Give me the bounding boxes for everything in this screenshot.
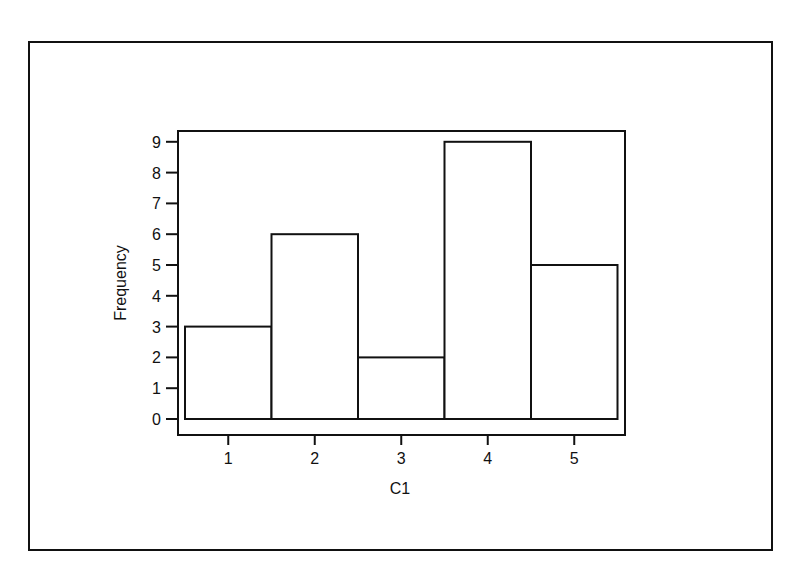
x-tick-label: 4 <box>483 450 492 467</box>
y-axis-title: Frequency <box>112 245 129 321</box>
x-tick-label: 5 <box>570 450 579 467</box>
y-tick-label: 5 <box>152 257 161 274</box>
x-tick-label: 2 <box>310 450 319 467</box>
y-tick-label: 9 <box>152 134 161 151</box>
y-tick-label: 0 <box>152 411 161 428</box>
bars-group <box>185 142 618 419</box>
x-tick-label: 3 <box>397 450 406 467</box>
y-tick-label: 6 <box>152 226 161 243</box>
x-axis: 12345 <box>224 435 579 467</box>
y-tick-label: 4 <box>152 288 161 305</box>
histogram-bar-1 <box>185 327 272 419</box>
histogram-chart: 0123456789 12345 C1 Frequency <box>0 0 799 570</box>
histogram-bar-3 <box>358 357 445 419</box>
y-tick-label: 1 <box>152 380 161 397</box>
y-tick-label: 3 <box>152 319 161 336</box>
y-tick-label: 7 <box>152 195 161 212</box>
histogram-bar-5 <box>531 265 618 419</box>
x-axis-title: C1 <box>390 480 411 497</box>
x-tick-label: 1 <box>224 450 233 467</box>
y-tick-label: 8 <box>152 165 161 182</box>
y-axis: 0123456789 <box>152 134 178 428</box>
histogram-bar-4 <box>445 142 532 419</box>
y-tick-label: 2 <box>152 349 161 366</box>
histogram-bar-2 <box>272 234 359 419</box>
